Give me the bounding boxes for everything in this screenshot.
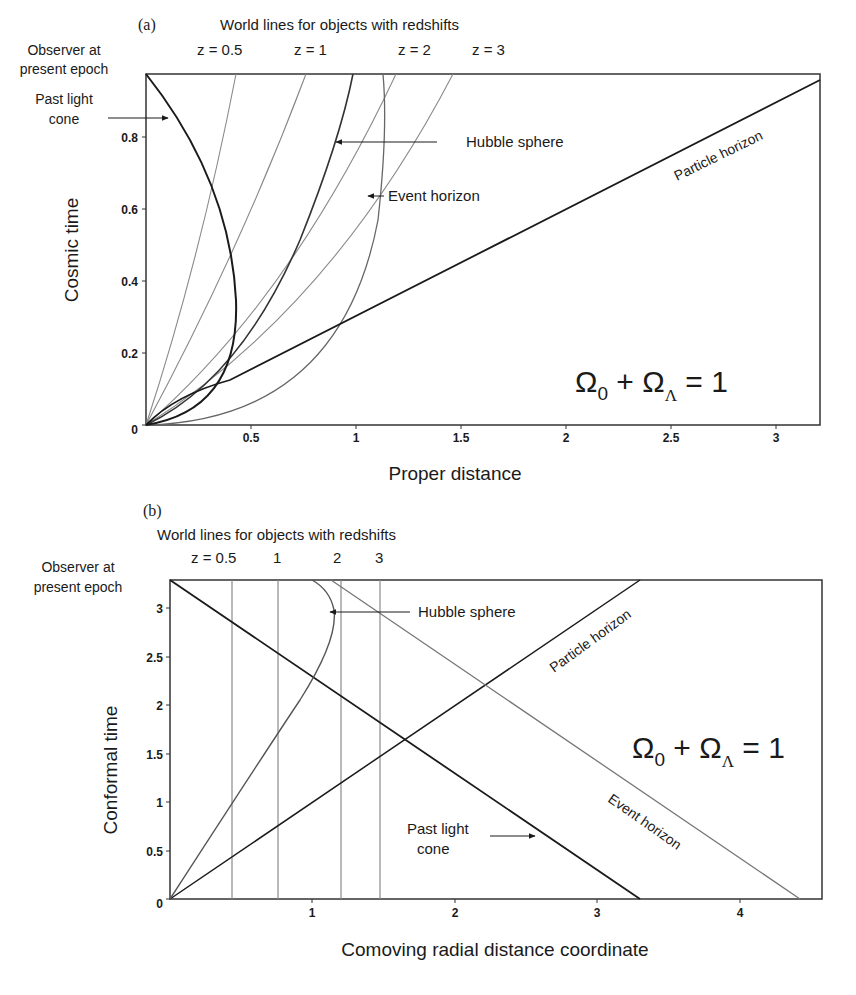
z-label-1-b: 1: [273, 549, 281, 566]
y-tick-0.2: 0.2: [121, 347, 138, 361]
y-axis-b: 0 0.5 1 1.5 2 2.5 3: [146, 602, 170, 911]
x-axis-label-a: Proper distance: [388, 463, 521, 484]
x-tick-2.5: 2.5: [663, 431, 680, 445]
y-axis-label-a: Cosmic time: [61, 198, 82, 303]
world-lines-b: [232, 580, 380, 899]
panel-a: (a) World lines for objects with redshif…: [20, 16, 820, 484]
hubble-sphere-label-b: Hubble sphere: [418, 603, 516, 620]
equation-a: Ω0 + ΩΛ = 1: [575, 365, 728, 405]
z-label-0.5-b: z = 0.5: [191, 549, 236, 566]
observer-label-line1: Observer at: [27, 42, 100, 58]
worldline-z0.5: [146, 74, 236, 425]
x-axis-a: 0.5 1 1.5 2 2.5 3: [243, 425, 780, 445]
hubble-sphere-curve-b: [170, 580, 334, 899]
observer-label-b-line1: Observer at: [41, 559, 114, 575]
x-tick-3: 3: [773, 431, 780, 445]
y-tick-2.5-b: 2.5: [146, 651, 163, 665]
z-label-1: z = 1: [294, 41, 327, 58]
past-light-cone-label-b-line2: cone: [417, 840, 450, 857]
past-light-cone-label-line1: Past light: [35, 91, 93, 107]
equation-b: Ω0 + ΩΛ = 1: [632, 731, 785, 771]
x-tick-2-b: 2: [452, 906, 459, 920]
figure: (a) World lines for objects with redshif…: [0, 0, 856, 995]
panel-b: (b) World lines for objects with redshif…: [34, 502, 822, 960]
y-tick-0.8: 0.8: [121, 131, 138, 145]
observer-label-b-line2: present epoch: [34, 579, 123, 595]
y-tick-0.5-b: 0.5: [146, 845, 163, 859]
y-tick-0: 0: [131, 423, 138, 437]
x-tick-2: 2: [563, 431, 570, 445]
z-label-2: z = 2: [398, 41, 431, 58]
z-label-3-b: 3: [375, 549, 383, 566]
z-label-3: z = 3: [472, 41, 505, 58]
hubble-sphere-curve-a: [146, 74, 353, 425]
hubble-sphere-label-a: Hubble sphere: [466, 133, 564, 150]
x-tick-1-b: 1: [309, 906, 316, 920]
x-tick-4-b: 4: [737, 906, 744, 920]
z-label-0.5: z = 0.5: [197, 41, 242, 58]
y-tick-3-b: 3: [156, 602, 163, 616]
event-horizon-label-b: Event horizon: [605, 790, 684, 852]
x-tick-1: 1: [353, 431, 360, 445]
y-tick-1.5-b: 1.5: [146, 748, 163, 762]
x-axis-label-b: Comoving radial distance coordinate: [341, 939, 648, 960]
past-light-cone-label-line2: cone: [49, 111, 80, 127]
y-tick-1-b: 1: [156, 796, 163, 810]
past-light-cone-curve-a: [146, 74, 236, 425]
panel-a-title: World lines for objects with redshifts: [220, 16, 459, 33]
worldline-z1: [146, 74, 306, 425]
particle-horizon-label-a: Particle horizon: [671, 127, 765, 184]
y-axis-label-b: Conformal time: [100, 706, 121, 835]
y-tick-0.4: 0.4: [121, 275, 138, 289]
event-horizon-line-b: [331, 580, 800, 899]
y-tick-2-b: 2: [156, 699, 163, 713]
event-horizon-label-a: Event horizon: [388, 187, 480, 204]
z-label-2-b: 2: [333, 549, 341, 566]
x-tick-0.5: 0.5: [243, 431, 260, 445]
particle-horizon-label-b: Particle horizon: [546, 606, 633, 676]
y-tick-0.6: 0.6: [121, 203, 138, 217]
x-tick-1.5: 1.5: [453, 431, 470, 445]
x-tick-3-b: 3: [594, 906, 601, 920]
panel-b-tag: (b): [143, 502, 162, 520]
panel-b-title: World lines for objects with redshifts: [157, 526, 396, 543]
x-axis-b: 1 2 3 4: [309, 899, 744, 920]
panel-a-tag: (a): [138, 16, 156, 34]
plot-frame-b: [170, 580, 822, 899]
past-light-cone-label-b-line1: Past light: [407, 820, 470, 837]
y-tick-0-b: 0: [156, 897, 163, 911]
observer-label-line2: present epoch: [20, 61, 109, 77]
y-axis-a: 0 0.2 0.4 0.6 0.8: [121, 131, 146, 437]
